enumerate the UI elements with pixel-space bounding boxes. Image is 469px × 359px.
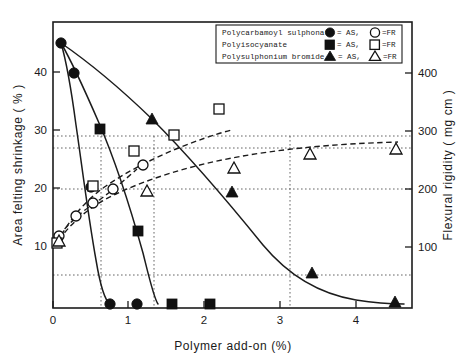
axis-ticks-left	[53, 72, 60, 246]
data-point-as-square	[205, 299, 215, 309]
x-axis-title: Polymer add-on (%)	[174, 339, 292, 353]
data-point-as-square	[95, 124, 105, 134]
data-point-as-triangle	[389, 296, 401, 307]
tick-label-right-400: 400	[418, 67, 437, 79]
chart-figure: 40 30 20 10 400 300 200 100 0 1 2 3 4 Ar…	[0, 0, 469, 359]
tick-label-bottom-3: 3	[277, 314, 283, 326]
tick-label-bottom-1: 1	[125, 314, 131, 326]
legend-fr-suffix-row3: =FR	[383, 53, 397, 61]
curve-as-polycarbamoyl-sulphonate	[61, 43, 110, 304]
data-point-fr-square	[88, 181, 98, 191]
legend-as-suffix-row1: = AS,	[337, 29, 360, 37]
tick-label-right-300: 300	[418, 125, 437, 137]
tick-label-left-40: 40	[34, 66, 47, 78]
legend-filled-triangle-icon	[324, 51, 335, 60]
chart-legend: Polycarbamoyl sulphonate = AS, =FR Polyi…	[216, 25, 402, 63]
markers-as-polyisocyanate	[95, 124, 215, 309]
data-point-as-circle	[56, 38, 66, 48]
tick-label-bottom-0: 0	[50, 314, 56, 326]
legend-as-suffix-row3: = AS,	[338, 53, 361, 61]
data-point-fr-triangle	[228, 162, 240, 173]
curve-fr-polyisocyanate	[57, 130, 232, 243]
data-point-as-square	[133, 226, 143, 236]
data-point-fr-circle	[88, 198, 98, 208]
curve-as-polyisocyanate	[61, 43, 158, 304]
chart-svg: 40 30 20 10 400 300 200 100 0 1 2 3 4 Ar…	[0, 0, 469, 359]
legend-as-suffix-row2: = AS,	[337, 41, 360, 49]
data-point-fr-circle	[71, 211, 81, 221]
tick-label-left-20: 20	[34, 182, 47, 194]
y-axis-right-title: Flexural rigidity ( mg cm )	[441, 90, 455, 241]
tick-label-bottom-4: 4	[353, 314, 360, 326]
data-point-as-triangle	[226, 186, 238, 197]
tick-labels-right: 400 300 200 100	[418, 67, 437, 253]
tick-label-left-10: 10	[34, 240, 47, 252]
legend-open-triangle-icon	[369, 51, 380, 60]
legend-fr-suffix-row1: =FR	[382, 29, 396, 37]
data-point-fr-circle	[108, 184, 118, 194]
axis-ticks-bottom	[53, 301, 356, 308]
legend-fr-suffix-row2: =FR	[382, 41, 396, 49]
data-point-fr-triangle	[390, 143, 402, 154]
data-point-as-circle	[69, 68, 79, 78]
tick-label-right-200: 200	[418, 183, 437, 195]
tick-label-bottom-2: 2	[201, 314, 207, 326]
legend-label-polyisocyanate: Polyisocyanate	[222, 41, 288, 49]
legend-open-circle-icon	[370, 28, 379, 37]
axis-ticks-right	[405, 73, 412, 247]
data-point-fr-square	[129, 146, 139, 156]
data-point-fr-triangle	[141, 185, 153, 196]
legend-open-square-icon	[370, 40, 379, 49]
markers-as-polysulphonium-bromide	[146, 113, 401, 307]
tick-label-left-30: 30	[34, 124, 47, 136]
legend-label-polycarbamoyl-sulphonate: Polycarbamoyl sulphonate	[222, 29, 334, 37]
data-point-fr-square	[214, 104, 224, 114]
data-point-as-circle	[132, 299, 142, 309]
data-point-as-square	[167, 299, 177, 309]
tick-labels-bottom: 0 1 2 3 4	[50, 314, 360, 326]
data-point-as-triangle	[306, 267, 318, 278]
tick-labels-left: 40 30 20 10	[34, 66, 47, 252]
data-point-fr-square	[169, 130, 179, 140]
legend-filled-square-icon	[325, 40, 334, 49]
legend-filled-circle-icon	[325, 28, 334, 37]
data-point-fr-circle	[138, 160, 148, 170]
data-point-fr-triangle	[304, 148, 316, 159]
tick-label-right-100: 100	[418, 241, 437, 253]
legend-label-polysulphonium-bromide: Polysulphonium bromide	[222, 53, 325, 61]
guide-lines	[53, 136, 412, 308]
data-point-as-circle	[105, 299, 115, 309]
y-axis-left-title: Area felting shrinkage ( % )	[11, 84, 25, 246]
